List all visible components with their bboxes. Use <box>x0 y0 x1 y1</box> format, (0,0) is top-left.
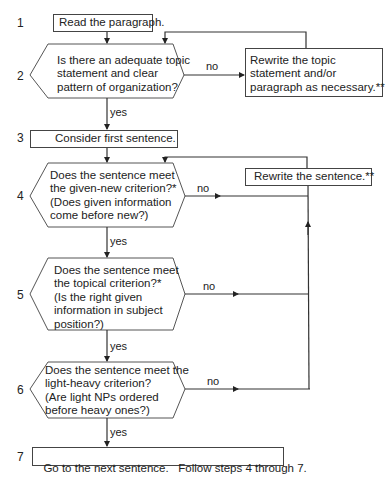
decision-line: come before new?) <box>50 209 177 222</box>
process-text: Consider first sentence. <box>55 132 176 144</box>
decision-line: before heavy ones?) <box>45 404 189 417</box>
decision-line: Does the sentence meet the <box>45 364 189 377</box>
edge-label-yes-2: yes <box>110 106 127 118</box>
decision-line: information in subject <box>54 304 179 317</box>
rewrite-topic-line: statement and/or <box>250 67 382 80</box>
decision-line: (Are light NPs ordered <box>45 391 189 404</box>
edge-label-no-5: no <box>203 280 215 292</box>
edge-label-no-2: no <box>206 60 218 72</box>
process-box-rewrite-sentence: Rewrite the sentence.** <box>245 168 372 186</box>
decision-line: Does the sentence meet <box>50 169 177 182</box>
decision-line: the topical criterion?* <box>54 277 179 290</box>
decision-line: (Is the right given <box>54 291 179 304</box>
step-number-5: 5 <box>17 288 24 302</box>
edge-label-yes-6: yes <box>110 426 127 438</box>
edge-label-no-4: no <box>197 182 209 194</box>
step-number-1: 1 <box>17 16 24 30</box>
process-text: Read the paragraph. <box>59 16 165 28</box>
step-number-2: 2 <box>17 69 24 83</box>
step-number-7: 7 <box>17 450 24 464</box>
process-box-consider-first-sentence: Consider first sentence. <box>30 130 178 148</box>
decision-text-2: Is there an adequate topic statement and… <box>57 54 190 94</box>
edge-label-yes-4: yes <box>110 235 127 247</box>
step-number-6: 6 <box>17 383 24 397</box>
rewrite-topic-line: paragraph as necessary.** <box>250 81 382 94</box>
decision-line: (Does given information <box>50 196 177 209</box>
process-box-next-sentence: Go to the next sentence. Follow steps 4 … <box>32 447 284 466</box>
rewrite-topic-line: Rewrite the topic <box>250 54 382 67</box>
decision-line: statement and clear <box>57 67 190 80</box>
decision-text-6: Does the sentence meet the light-heavy c… <box>45 364 189 418</box>
edge-label-yes-5: yes <box>110 340 127 352</box>
process-box-read-paragraph: Read the paragraph. <box>53 14 153 32</box>
step-number-3: 3 <box>17 131 24 145</box>
process-box-rewrite-topic: Rewrite the topic statement and/or parag… <box>245 48 383 97</box>
decision-line: the given-new criterion?* <box>50 182 177 195</box>
decision-line: Does the sentence meet <box>54 264 179 277</box>
decision-line: pattern of organization? <box>57 81 190 94</box>
decision-line: Is there an adequate topic <box>57 54 190 67</box>
process-text: Rewrite the sentence.** <box>254 170 374 182</box>
decision-line: position?) <box>54 318 179 331</box>
edge-label-no-6: no <box>207 375 219 387</box>
decision-text-5: Does the sentence meet the topical crite… <box>54 264 179 331</box>
process-text: Go to the next sentence. Follow steps 4 … <box>43 462 306 474</box>
decision-text-4: Does the sentence meet the given-new cri… <box>50 169 177 223</box>
step-number-4: 4 <box>17 189 24 203</box>
decision-line: light-heavy criterion? <box>45 377 189 390</box>
